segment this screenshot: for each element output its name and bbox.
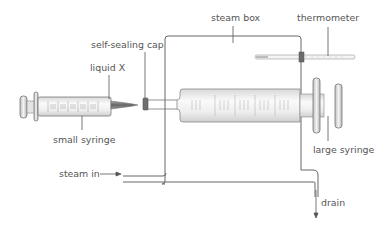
label-steam-box: steam box: [211, 12, 261, 23]
label-large-syringe: large syringe: [313, 144, 375, 155]
label-liquid-x: liquid X: [90, 62, 126, 73]
steam-in-arrow: [100, 172, 121, 176]
large-syringe: [177, 78, 342, 133]
thermometer: [255, 52, 355, 62]
label-small-syringe: small syringe: [53, 134, 116, 145]
small-syringe: [20, 92, 138, 121]
label-drain: drain: [321, 197, 345, 208]
steam-box-apparatus-diagram: self-sealing cap liquid X small syringe …: [0, 0, 387, 228]
label-self-sealing-cap: self-sealing cap: [91, 39, 164, 50]
connecting-tube: [146, 100, 177, 109]
label-steam-in: steam in: [59, 168, 100, 179]
label-thermometer: thermometer: [297, 12, 359, 23]
self-sealing-cap: [143, 98, 148, 110]
